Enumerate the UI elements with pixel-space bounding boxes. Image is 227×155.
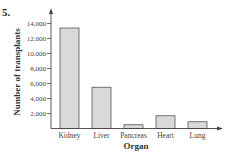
- x-axis-arrow-icon: [217, 127, 223, 131]
- x-category-label: Pancreas: [120, 131, 147, 140]
- y-tick-label: 4,000: [30, 95, 46, 103]
- bar-pancreas: [124, 125, 143, 129]
- x-axis-title: Organ: [123, 141, 148, 151]
- bar-kidney: [60, 28, 79, 129]
- x-category-label: Heart: [157, 131, 175, 140]
- y-tick-label: 6,000: [30, 80, 46, 88]
- y-tick-label: 2,000: [30, 110, 46, 118]
- y-tick-label: 8,000: [30, 65, 46, 73]
- x-category-label: Lung: [190, 131, 206, 140]
- x-category-label: Kidney: [58, 131, 80, 140]
- bar-lung: [188, 122, 207, 129]
- x-category-label: Liver: [93, 131, 110, 140]
- y-tick-label: 14,000: [27, 20, 47, 28]
- bar-liver: [92, 87, 111, 128]
- bar-chart: 2,0004,0006,0008,00010,00012,00014,000 K…: [0, 0, 227, 155]
- bar-heart: [156, 116, 175, 129]
- y-axis-arrow-icon: [49, 8, 53, 14]
- bars: [60, 28, 207, 129]
- x-axis-category-labels: KidneyLiverPancreasHeartLung: [58, 131, 205, 140]
- y-tick-label: 12,000: [27, 35, 47, 43]
- y-axis-ticks: 2,0004,0006,0008,00010,00012,00014,000: [27, 20, 51, 118]
- y-axis-title: Number of transplants: [12, 28, 22, 116]
- y-tick-label: 10,000: [27, 50, 47, 58]
